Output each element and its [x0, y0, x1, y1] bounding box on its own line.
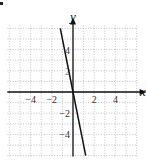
graph: −4−22442−2−4 x y	[0, 0, 146, 160]
x-axis-label: x	[139, 84, 146, 99]
axes	[7, 17, 146, 156]
y-tick-label: −2	[59, 108, 70, 119]
y-axis-label: y	[68, 9, 76, 24]
x-tick-label: 4	[113, 94, 118, 105]
x-tick-label: 2	[92, 94, 97, 105]
y-tick-label: −4	[59, 129, 70, 140]
x-tick-label: −2	[46, 94, 57, 105]
x-tick-label: −4	[25, 94, 36, 105]
